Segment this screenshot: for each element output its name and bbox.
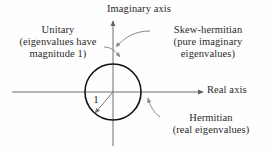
skew-hermitian-annotation: Skew-hermitian (pure imaginary eigenvalu… — [148, 24, 268, 60]
unitary-annotation: Unitary (eigenvalues have magnitude 1) — [6, 24, 110, 60]
hermitian-annotation-line-1: Hermitian — [152, 112, 270, 124]
skew-hermitian-annotation-line-1: Skew-hermitian — [148, 24, 268, 36]
hermitian-annotation: Hermitian (real eigenvalues) — [152, 112, 270, 136]
real-axis-label: Real axis — [207, 84, 271, 96]
unitary-annotation-line-3: magnitude 1) — [6, 48, 110, 60]
imaginary-axis-label: Imaginary axis — [84, 3, 194, 15]
skew-hermitian-annotation-line-3: eigenvalues) — [148, 48, 268, 60]
imaginary-axis-label-text: Imaginary axis — [84, 3, 194, 15]
hermitian-annotation-line-2: (real eigenvalues) — [152, 124, 270, 136]
radius-label-text: 1 — [90, 93, 102, 106]
radius-label: 1 — [90, 93, 102, 106]
real-axis-label-text: Real axis — [207, 84, 271, 96]
complex-plane-eigenvalue-diagram: Imaginary axis Real axis Unitary (eigenv… — [0, 0, 272, 150]
skew-hermitian-annotation-line-2: (pure imaginary — [148, 36, 268, 48]
unitary-annotation-line-2: (eigenvalues have — [6, 36, 110, 48]
unitary-annotation-line-1: Unitary — [6, 24, 110, 36]
skew-hermitian-leader-line — [116, 31, 150, 47]
